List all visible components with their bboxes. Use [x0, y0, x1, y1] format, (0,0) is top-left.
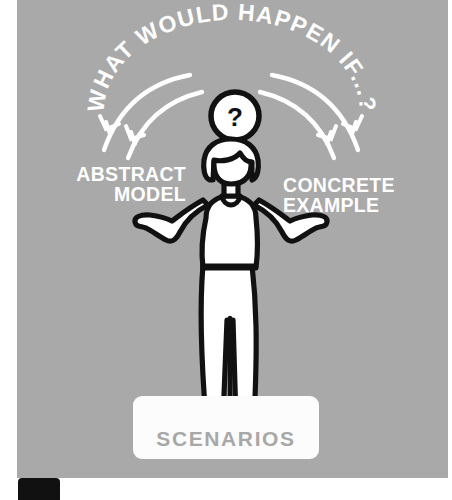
scenarios-label: SCENARIOS — [133, 427, 319, 451]
arrow-right-inner — [260, 92, 334, 158]
arrow-left-outer — [104, 75, 190, 150]
right-arrows-group — [260, 75, 358, 158]
left-arrows-group — [104, 75, 202, 158]
question-mark-icon: ? — [227, 102, 243, 132]
corner-badge — [18, 478, 60, 500]
person-left-arm — [135, 200, 208, 241]
label-abstract-model: ABSTRACT MODEL — [46, 165, 186, 205]
arrow-left-inner — [128, 92, 202, 158]
arrow-right-outer — [272, 75, 358, 150]
label-concrete-example: CONCRETE EXAMPLE — [283, 176, 433, 216]
